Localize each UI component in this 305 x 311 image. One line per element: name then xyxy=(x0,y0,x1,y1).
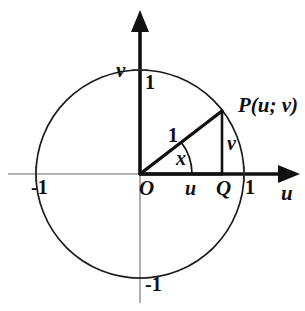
tick-label-top-one: 1 xyxy=(145,72,155,92)
segment-label-v: v xyxy=(227,133,236,153)
axis-label-u: u xyxy=(281,183,293,204)
figure-canvas xyxy=(0,0,305,311)
point-label-Q: Q xyxy=(216,178,231,199)
segment-label-hypotenuse: 1 xyxy=(168,125,178,145)
tick-label-bottom-neg-one: -1 xyxy=(145,274,162,294)
tick-label-right-one: 1 xyxy=(245,177,255,197)
point-label-O: O xyxy=(139,178,154,199)
point-label-P: P(u; v) xyxy=(238,95,298,116)
angle-label-x: x xyxy=(176,148,186,168)
axis-label-v: v xyxy=(116,60,125,81)
segment-label-u: u xyxy=(185,178,196,198)
tick-label-left-neg-one: -1 xyxy=(31,177,48,197)
